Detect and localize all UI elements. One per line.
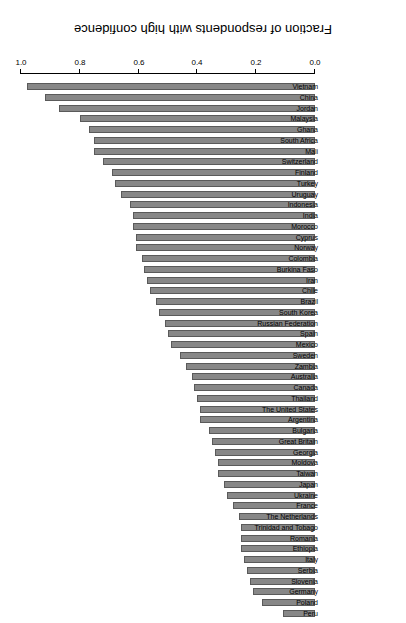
x-axis-tick-label: 0.4 — [192, 58, 203, 67]
bar-row: Canada — [0, 382, 406, 393]
bar-row: Norway — [0, 243, 406, 254]
bar-row: Serbia — [0, 565, 406, 576]
x-axis-tick-label: 0.2 — [251, 58, 262, 67]
bar-category-label: China — [300, 92, 318, 103]
bar-category-label: Peru — [303, 608, 318, 619]
bar-category-label: Indonesia — [288, 200, 318, 211]
bar-row: Bulgaria — [0, 425, 406, 436]
bar-row: Ghana — [0, 124, 406, 135]
bar — [27, 83, 315, 90]
bar-category-label: Mexico — [296, 339, 318, 350]
bar-category-label: Vietnam — [292, 81, 318, 92]
x-axis-tick-label: 0.8 — [74, 58, 85, 67]
bar-row: Russian Federation — [0, 318, 406, 329]
bar-category-label: Ukraine — [294, 490, 318, 501]
bar-row: Trinidad and Tobago — [0, 522, 406, 533]
bar-category-label: The Netherlands — [266, 511, 318, 522]
bar — [89, 126, 315, 133]
bar-row: Slovenia — [0, 576, 406, 587]
bar-category-label: Bulgaria — [292, 425, 318, 436]
bar-category-label: Canada — [293, 382, 318, 393]
bar-category-label: Ethiopia — [293, 544, 318, 555]
bar-category-label: Spain — [300, 329, 318, 340]
bar-row: Ukraine — [0, 490, 406, 501]
bar-row: South Korea — [0, 307, 406, 318]
bar-category-label: Thailand — [291, 393, 318, 404]
bar-category-label: Norway — [294, 243, 318, 254]
bar-category-label: Switzerland — [282, 157, 318, 168]
bar — [168, 331, 315, 338]
x-axis: 0.00.20.40.60.81.0 — [0, 44, 406, 74]
bar-category-label: Finland — [295, 167, 318, 178]
bar-row: Mali — [0, 146, 406, 157]
bar-row: Poland — [0, 597, 406, 608]
bar-row: Malaysia — [0, 114, 406, 125]
bar-category-label: Italy — [305, 554, 318, 565]
bar-category-label: Georgia — [293, 447, 318, 458]
bar-row: Argentina — [0, 415, 406, 426]
bar-row: The United States — [0, 404, 406, 415]
x-axis-line — [21, 73, 315, 74]
bar-category-label: France — [296, 501, 318, 512]
bar-row: Australia — [0, 372, 406, 383]
bar-chart-figure: PeruPolandGermanySloveniaSerbiaItalyEthi… — [0, 0, 406, 623]
x-axis-tick-label: 0.0 — [309, 58, 320, 67]
bar-row: Indonesia — [0, 200, 406, 211]
bar-category-label: Jordan — [297, 103, 318, 114]
bar — [150, 288, 315, 295]
bar-category-label: The United States — [262, 404, 318, 415]
bar-row: Finland — [0, 167, 406, 178]
bar-row: Jordan — [0, 103, 406, 114]
bar-row: Romania — [0, 533, 406, 544]
bar-row: Sweden — [0, 350, 406, 361]
bar-row: Uruguay — [0, 189, 406, 200]
x-axis-tick — [196, 69, 197, 74]
bar-row: Morocco — [0, 221, 406, 232]
bar — [59, 105, 315, 112]
x-axis-tick — [138, 69, 139, 74]
bar — [136, 245, 315, 252]
bar-row: Peru — [0, 608, 406, 619]
bar-category-label: Ghana — [297, 124, 318, 135]
bar-category-label: Great Britain — [279, 436, 318, 447]
bar-row: Ethiopia — [0, 544, 406, 555]
bar-category-label: Romania — [290, 533, 318, 544]
x-axis-tick — [314, 69, 315, 74]
bar-category-label: Morocco — [291, 221, 318, 232]
bar-row: Japan — [0, 479, 406, 490]
bar-row: The Netherlands — [0, 511, 406, 522]
bar-category-label: Sweden — [293, 350, 318, 361]
bar-category-label: Colombia — [288, 253, 318, 264]
bar-row: Chile — [0, 286, 406, 297]
bar — [171, 341, 315, 348]
bar — [136, 234, 315, 241]
bar-row: Spain — [0, 329, 406, 340]
bar-row: China — [0, 92, 406, 103]
bar-row: Iran — [0, 275, 406, 286]
x-axis-tick — [20, 69, 21, 74]
bar-row: Taiwan — [0, 468, 406, 479]
bar-category-label: Trinidad and Tobago — [255, 522, 318, 533]
bar-row: Great Britain — [0, 436, 406, 447]
bar-row: India — [0, 210, 406, 221]
bar-row: Brazil — [0, 296, 406, 307]
x-axis-tick — [79, 69, 80, 74]
bar-row: Thailand — [0, 393, 406, 404]
bar-row: Mexico — [0, 339, 406, 350]
plot-area: PeruPolandGermanySloveniaSerbiaItalyEthi… — [0, 82, 406, 623]
bar-category-label: Cyprus — [296, 232, 318, 243]
bar-category-label: Serbia — [298, 565, 318, 576]
bar-row: Cyprus — [0, 232, 406, 243]
bar — [147, 277, 315, 284]
bar-row: Switzerland — [0, 157, 406, 168]
bar-category-label: South Africa — [280, 135, 318, 146]
bar-row: Turkey — [0, 178, 406, 189]
bar — [133, 212, 315, 219]
bar-category-label: Mali — [305, 146, 318, 157]
bar-category-label: Brazil — [300, 296, 318, 307]
bar-row: Vietnam — [0, 81, 406, 92]
bar — [156, 298, 315, 305]
bar-category-label: Australia — [291, 372, 318, 383]
bar-row: France — [0, 501, 406, 512]
bar-category-label: Slovenia — [291, 576, 318, 587]
